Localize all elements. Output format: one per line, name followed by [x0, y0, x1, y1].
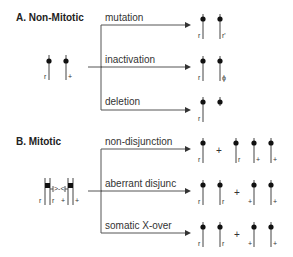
svg-text:+: +	[61, 197, 65, 204]
svg-text:r': r'	[222, 32, 226, 39]
svg-text:+: +	[273, 198, 277, 205]
svg-text:r: r	[52, 197, 55, 204]
result-somatic-crossover: r r + + +	[198, 222, 277, 247]
branch-label: deletion	[105, 96, 140, 107]
result-deletion: r	[198, 97, 223, 122]
section-mitotic: B. Mitotic >-< r r + + non-disjunction a…	[16, 136, 277, 247]
svg-text:r: r	[222, 240, 225, 247]
section-title: B. Mitotic	[16, 136, 61, 147]
svg-text:+: +	[234, 229, 240, 240]
branch-label: non-disjunction	[105, 136, 172, 147]
svg-text:r: r	[198, 115, 201, 122]
section-non-mitotic: A. Non-Mitotic r + mutation inactivation…	[16, 12, 226, 122]
svg-text:r: r	[198, 74, 201, 81]
svg-text:+: +	[248, 198, 252, 205]
svg-text:+: +	[256, 156, 260, 163]
branch-label: mutation	[105, 12, 143, 23]
result-mutation: r r'	[198, 14, 226, 39]
result-non-disjunction: r + r + +	[198, 138, 277, 163]
svg-text:+: +	[248, 240, 252, 247]
svg-text:r: r	[198, 240, 201, 247]
svg-text:+: +	[75, 197, 79, 204]
svg-text:ϕ: ϕ	[222, 74, 226, 82]
svg-text:r: r	[198, 156, 201, 163]
svg-text:>-<: >-<	[54, 185, 65, 192]
svg-text:+: +	[273, 240, 277, 247]
start-chromosomes: r +	[44, 55, 72, 80]
svg-text:r: r	[222, 198, 225, 205]
svg-text:+: +	[68, 73, 72, 80]
svg-text:r: r	[238, 156, 241, 163]
svg-text:r: r	[44, 73, 47, 80]
branch-label: aberrant disjunc	[105, 178, 176, 189]
svg-text:+: +	[273, 156, 277, 163]
result-inactivation: r ϕ	[198, 56, 226, 82]
section-title: A. Non-Mitotic	[16, 12, 84, 23]
svg-text:r: r	[198, 198, 201, 205]
start-chromosomes: >-< r r + +	[39, 178, 79, 205]
result-aberrant-disjunction: r r + + +	[198, 180, 277, 205]
svg-text:r: r	[39, 197, 42, 204]
svg-text:+: +	[234, 187, 240, 198]
genetic-mechanisms-diagram: A. Non-Mitotic r + mutation inactivation…	[0, 0, 293, 257]
branch-label: somatic X-over	[105, 220, 172, 231]
branch-label: inactivation	[105, 54, 155, 65]
svg-text:+: +	[216, 145, 222, 156]
svg-text:r: r	[198, 32, 201, 39]
